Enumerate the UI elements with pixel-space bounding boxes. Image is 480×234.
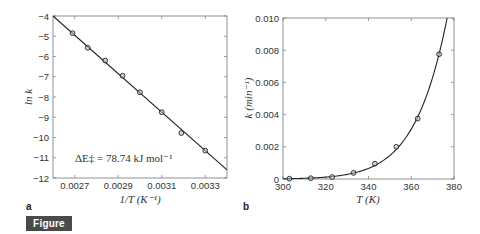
x-tick-label: 360 xyxy=(403,181,419,192)
y-tick-label: −10 xyxy=(33,132,49,143)
panel-b-y-ticks: 00.0020.0040.0060.0080.010 xyxy=(255,13,454,185)
panel-b-xlabel: T (K) xyxy=(356,193,380,206)
data-point xyxy=(159,110,164,115)
panel-b-fit-curve xyxy=(283,18,447,179)
data-point xyxy=(103,58,108,63)
x-tick-label: 340 xyxy=(361,181,377,192)
data-point xyxy=(308,176,313,181)
panel-b-frame xyxy=(283,18,454,179)
data-point xyxy=(373,161,378,166)
y-tick-label: 0.004 xyxy=(255,109,279,120)
panel-a-ylabel: ln k xyxy=(22,88,34,105)
x-tick-label: 380 xyxy=(446,181,462,192)
x-tick-label: 320 xyxy=(318,181,334,192)
y-tick-label: −8 xyxy=(38,92,49,103)
figure-caption-badge: Figure 6.3 xyxy=(26,216,72,231)
data-point xyxy=(203,148,208,153)
x-tick-label: 0.0029 xyxy=(104,180,133,191)
y-tick-label: −7 xyxy=(38,71,49,82)
y-tick-label: −12 xyxy=(33,173,49,184)
x-tick-label: 0.0031 xyxy=(147,180,176,191)
y-tick-label: −9 xyxy=(38,112,49,123)
x-tick-label: 0.0027 xyxy=(60,180,89,191)
y-tick-label: −4 xyxy=(38,11,49,22)
y-tick-label: 0.002 xyxy=(255,141,279,152)
panel-a-xlabel: 1/T (K⁻¹) xyxy=(119,193,161,206)
panel-a-x-ticks: 0.00270.00290.00310.0033 xyxy=(60,16,220,191)
data-point xyxy=(351,170,356,175)
data-point xyxy=(120,73,125,78)
panel-b-x-ticks: 300320340360380 xyxy=(275,18,462,192)
data-point xyxy=(70,31,75,36)
data-point xyxy=(287,176,292,181)
data-point xyxy=(138,90,143,95)
y-tick-label: −5 xyxy=(38,31,49,42)
y-tick-label: −11 xyxy=(34,152,49,163)
data-point xyxy=(437,52,442,57)
panel-a-annotation: ΔE‡ = 78.74 kJ mol⁻¹ xyxy=(75,152,172,164)
y-tick-label: 0.006 xyxy=(255,77,279,88)
x-tick-label: 0.0033 xyxy=(191,180,220,191)
panel-b-ylabel: k (min⁻¹) xyxy=(242,77,255,118)
panel-b-plot: 00.0020.0040.0060.0080.010 3003203403603… xyxy=(242,13,462,213)
data-point xyxy=(415,116,420,121)
x-tick-label: 300 xyxy=(275,181,291,192)
data-point xyxy=(85,45,90,50)
panel-b-label: b xyxy=(243,201,249,212)
data-point xyxy=(330,175,335,180)
y-tick-label: 0.008 xyxy=(255,45,279,56)
data-point xyxy=(179,131,184,136)
panel-a-plot: −4−5−6−7−8−9−10−11−12 0.00270.00290.0031… xyxy=(22,11,227,213)
panel-b-data-points xyxy=(287,52,441,181)
y-tick-label: −6 xyxy=(38,51,49,62)
y-tick-label: 0.010 xyxy=(255,13,279,24)
panel-a-label: a xyxy=(26,201,32,212)
figure-canvas: −4−5−6−7−8−9−10−11−12 0.00270.00290.0031… xyxy=(0,0,480,234)
data-point xyxy=(394,144,399,149)
